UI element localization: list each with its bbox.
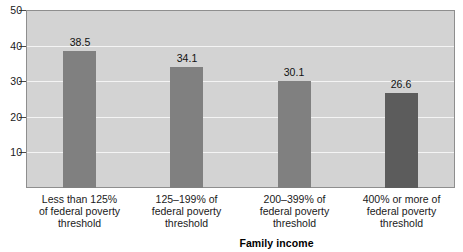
x-axis-category-label-line: 200–399% of [241,193,348,205]
x-axis-category-label: 125–199% offederal povertythreshold [133,193,240,230]
bar-value-label: 30.1 [274,67,314,78]
y-axis-tick-label: 50 [0,5,22,15]
bar-value-label: 34.1 [167,53,207,64]
bar-value-label: 26.6 [381,79,421,90]
x-axis-category-label-line: threshold [348,217,455,229]
x-axis-category-label: 200–399% offederal povertythreshold [241,193,348,230]
x-axis-category-label-line: Less than 125% [26,193,133,205]
x-axis-category-label-line: threshold [241,217,348,229]
bar-value-label: 38.5 [60,37,100,48]
x-axis-category-label-line: federal poverty [241,205,348,217]
x-axis-category-label-line: federal poverty [348,205,455,217]
bar [63,51,96,188]
y-axis-tick-label: 30 [0,76,22,86]
x-axis-category-label: Less than 125%of federal povertythreshol… [26,193,133,230]
x-axis-category-label-line: federal poverty [133,205,240,217]
x-axis-category-label-line: 125–199% of [133,193,240,205]
bar [278,81,311,188]
x-axis-category-label-line: threshold [133,217,240,229]
bar-chart: 1020304050 38.534.130.126.6 Less than 12… [0,0,463,252]
y-axis-tick-label: 40 [0,41,22,51]
x-axis-category-label-line: threshold [26,217,133,229]
x-axis-category-label-line: of federal poverty [26,205,133,217]
bar [170,67,203,188]
bar [385,93,418,188]
y-axis-tick-label: 20 [0,112,22,122]
x-axis-category-label: 400% or more offederal povertythreshold [348,193,455,230]
x-axis-title-text: Family income [239,237,313,249]
y-axis-tick-label: 10 [0,147,22,157]
x-axis-category-label-line: 400% or more of [348,193,455,205]
x-axis-title: Family income [0,237,463,249]
